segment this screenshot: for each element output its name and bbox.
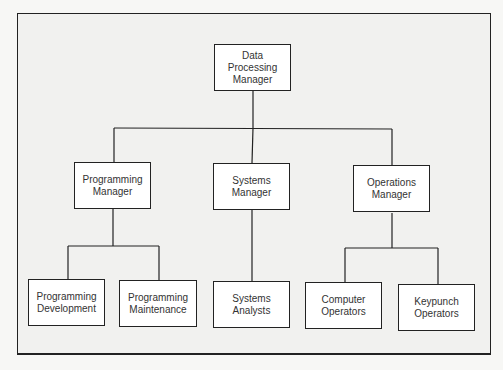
- node-computer-operators: Computer Operators: [305, 282, 382, 329]
- node-label: Programming Maintenance: [128, 292, 188, 316]
- node-label: Programming Manager: [82, 174, 142, 198]
- node-label: Data Processing Manager: [228, 50, 277, 86]
- node-data-processing-manager: Data Processing Manager: [214, 44, 291, 91]
- node-label: Computer Operators: [321, 294, 365, 318]
- node-label: Systems Manager: [232, 175, 271, 199]
- node-systems-analysts: Systems Analysts: [213, 281, 290, 328]
- node-label: Systems Analysts: [232, 293, 270, 317]
- node-programming-development: Programming Development: [28, 279, 105, 326]
- node-label: Operations Manager: [367, 177, 416, 201]
- node-label: Keypunch Operators: [414, 296, 458, 320]
- node-programming-maintenance: Programming Maintenance: [119, 280, 197, 327]
- node-systems-manager: Systems Manager: [213, 163, 290, 210]
- node-programming-manager: Programming Manager: [74, 162, 151, 209]
- node-label: Programming Development: [36, 291, 96, 315]
- node-keypunch-operators: Keypunch Operators: [398, 284, 475, 331]
- node-operations-manager: Operations Manager: [353, 165, 430, 212]
